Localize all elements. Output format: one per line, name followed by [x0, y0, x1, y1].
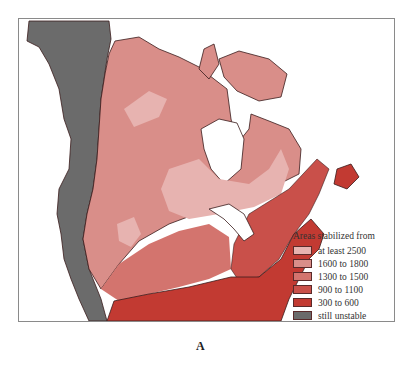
map-legend: Areas stabilized from at least 2500 1600… — [293, 231, 393, 322]
legend-item-900-1100: 900 to 1100 — [293, 283, 393, 296]
region-newfoundland — [334, 164, 359, 189]
legend-title: Areas stabilized from — [293, 231, 393, 241]
legend-swatch — [293, 272, 312, 281]
legend-item-at-least-2500: at least 2500 — [293, 244, 393, 257]
map-frame: Areas stabilized from at least 2500 1600… — [18, 18, 395, 322]
legend-label: still unstable — [318, 311, 366, 321]
legend-item-1300-1500: 1300 to 1500 — [293, 270, 393, 283]
legend-item-300-600: 300 to 600 — [293, 296, 393, 309]
region-arctic-islands — [219, 51, 287, 101]
legend-item-1600-1800: 1600 to 1800 — [293, 257, 393, 270]
legend-label: 1600 to 1800 — [318, 259, 368, 269]
legend-label: at least 2500 — [318, 246, 366, 256]
legend-label: 300 to 600 — [318, 298, 359, 308]
legend-swatch — [293, 246, 312, 255]
legend-swatch — [293, 259, 312, 268]
figure-label: A — [196, 339, 205, 354]
legend-label: 900 to 1100 — [318, 285, 363, 295]
legend-swatch — [293, 298, 312, 307]
legend-swatch — [293, 311, 312, 320]
legend-swatch — [293, 285, 312, 294]
legend-item-still-unstable: still unstable — [293, 309, 393, 322]
legend-label: 1300 to 1500 — [318, 272, 368, 282]
